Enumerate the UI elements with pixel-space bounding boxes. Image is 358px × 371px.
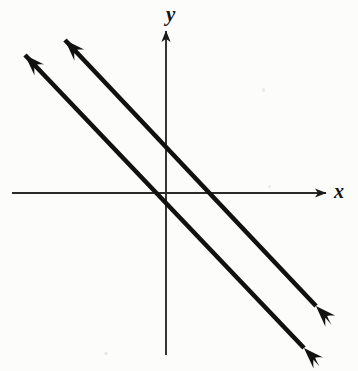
scan-speckle <box>262 88 265 92</box>
axes-group <box>12 31 326 355</box>
x-axis-label: x <box>334 181 344 201</box>
scan-speckle <box>268 185 271 188</box>
y-axis-label: y <box>166 4 175 25</box>
scan-speckle <box>104 352 108 355</box>
graph-canvas <box>0 0 358 371</box>
line-1 <box>25 55 304 348</box>
line-2 <box>65 40 316 306</box>
plotted-lines-group <box>25 40 316 348</box>
line-graph-figure: y x <box>0 0 358 371</box>
